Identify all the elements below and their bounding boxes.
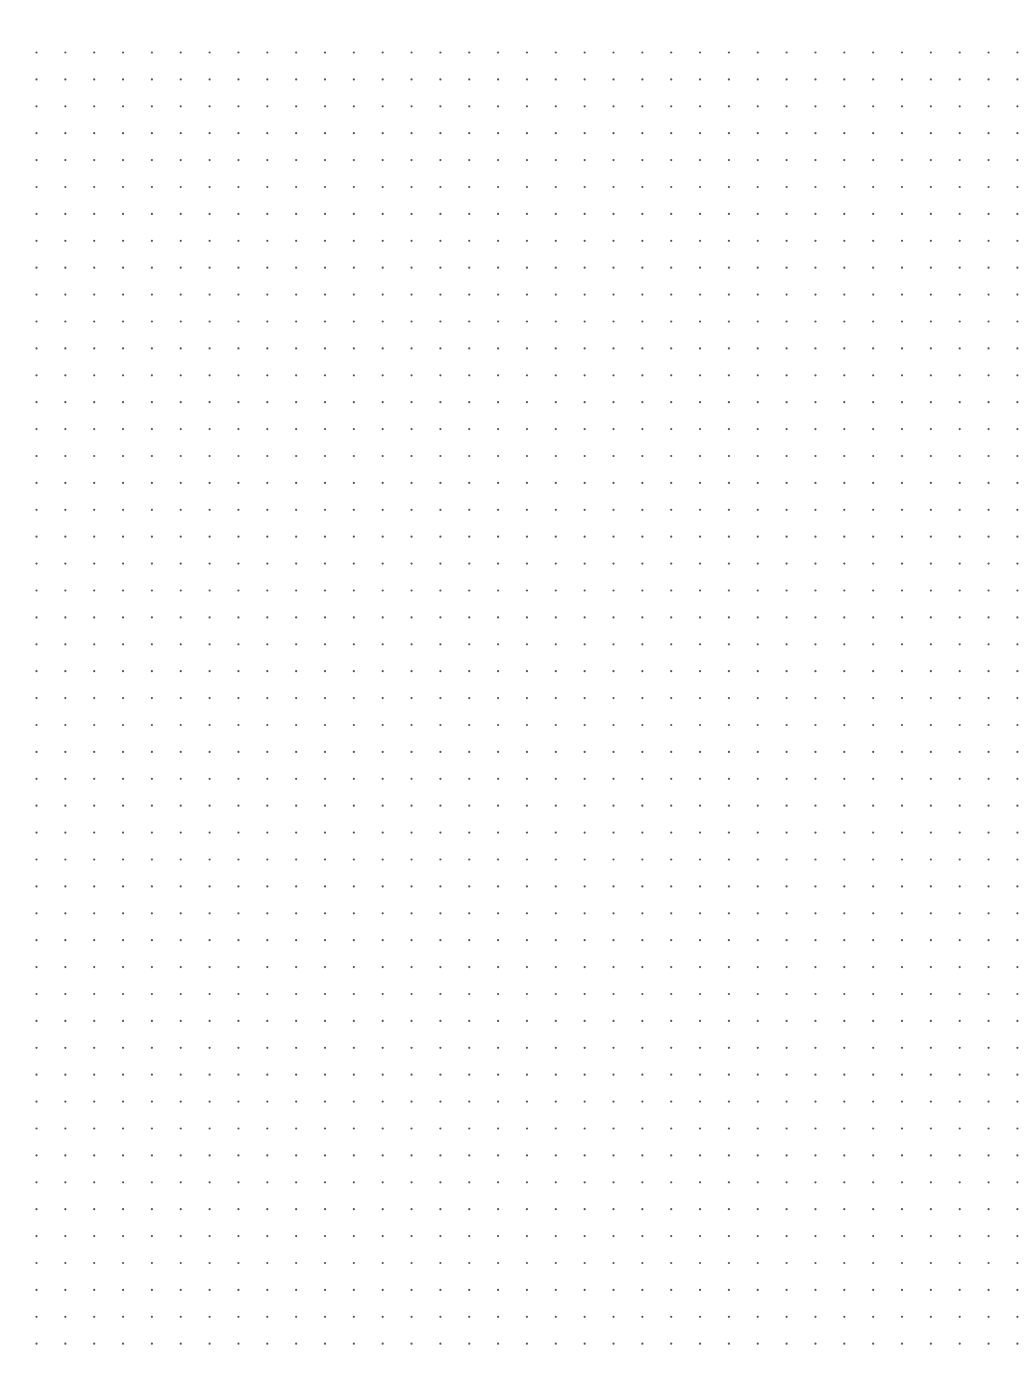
grid-dot bbox=[757, 213, 759, 215]
grid-dot bbox=[295, 78, 297, 80]
grid-dot bbox=[151, 455, 153, 457]
grid-dot bbox=[324, 1262, 326, 1264]
grid-dot bbox=[526, 401, 528, 403]
grid-dot bbox=[439, 589, 441, 591]
grid-dot bbox=[786, 428, 788, 430]
grid-dot bbox=[353, 213, 355, 215]
grid-dot bbox=[987, 401, 989, 403]
grid-dot bbox=[180, 455, 182, 457]
grid-dot bbox=[151, 885, 153, 887]
grid-dot bbox=[670, 428, 672, 430]
grid-dot bbox=[987, 616, 989, 618]
grid-dot bbox=[728, 536, 730, 538]
grid-dot bbox=[180, 401, 182, 403]
grid-dot bbox=[410, 320, 412, 322]
grid-dot bbox=[987, 374, 989, 376]
grid-dot bbox=[728, 589, 730, 591]
grid-dot bbox=[814, 482, 816, 484]
grid-dot bbox=[64, 294, 66, 296]
grid-dot bbox=[555, 966, 557, 968]
grid-dot bbox=[382, 966, 384, 968]
grid-dot bbox=[237, 482, 239, 484]
grid-dot bbox=[64, 1047, 66, 1049]
grid-dot bbox=[439, 1316, 441, 1318]
grid-dot bbox=[641, 320, 643, 322]
grid-dot bbox=[786, 1316, 788, 1318]
grid-dot bbox=[439, 1343, 441, 1345]
grid-dot bbox=[757, 132, 759, 134]
grid-dot bbox=[35, 751, 37, 753]
grid-dot bbox=[209, 1316, 211, 1318]
grid-dot bbox=[641, 885, 643, 887]
grid-dot bbox=[93, 213, 95, 215]
grid-dot bbox=[526, 1235, 528, 1237]
grid-dot bbox=[641, 724, 643, 726]
grid-dot bbox=[843, 428, 845, 430]
grid-dot bbox=[237, 1235, 239, 1237]
grid-dot bbox=[180, 509, 182, 511]
grid-dot bbox=[987, 1316, 989, 1318]
dot-grid-page bbox=[0, 0, 1030, 1386]
grid-dot bbox=[122, 509, 124, 511]
grid-dot bbox=[901, 374, 903, 376]
grid-dot bbox=[555, 616, 557, 618]
grid-dot bbox=[1016, 132, 1018, 134]
grid-dot bbox=[353, 1127, 355, 1129]
grid-dot bbox=[901, 885, 903, 887]
grid-dot bbox=[959, 778, 961, 780]
grid-dot bbox=[324, 482, 326, 484]
grid-dot bbox=[353, 401, 355, 403]
grid-dot bbox=[757, 428, 759, 430]
grid-dot bbox=[266, 1343, 268, 1345]
grid-dot bbox=[180, 643, 182, 645]
grid-dot bbox=[843, 966, 845, 968]
grid-dot bbox=[612, 939, 614, 941]
grid-dot bbox=[612, 455, 614, 457]
grid-dot bbox=[987, 1262, 989, 1264]
grid-dot bbox=[843, 159, 845, 161]
grid-dot bbox=[987, 159, 989, 161]
grid-dot bbox=[410, 105, 412, 107]
grid-dot bbox=[814, 1289, 816, 1291]
grid-dot bbox=[410, 993, 412, 995]
grid-dot bbox=[872, 1289, 874, 1291]
grid-dot bbox=[497, 482, 499, 484]
grid-dot bbox=[930, 240, 932, 242]
grid-dot bbox=[468, 159, 470, 161]
grid-dot bbox=[526, 643, 528, 645]
grid-dot bbox=[786, 132, 788, 134]
grid-dot bbox=[209, 455, 211, 457]
grid-dot bbox=[959, 213, 961, 215]
grid-dot bbox=[901, 482, 903, 484]
grid-dot bbox=[555, 912, 557, 914]
grid-dot bbox=[959, 1316, 961, 1318]
grid-dot bbox=[728, 455, 730, 457]
grid-dot bbox=[382, 1208, 384, 1210]
grid-dot bbox=[382, 1074, 384, 1076]
grid-dot bbox=[814, 724, 816, 726]
grid-dot bbox=[410, 428, 412, 430]
grid-dot bbox=[843, 78, 845, 80]
grid-dot bbox=[728, 616, 730, 618]
grid-dot bbox=[959, 240, 961, 242]
grid-dot bbox=[93, 993, 95, 995]
grid-dot bbox=[814, 912, 816, 914]
grid-dot bbox=[901, 78, 903, 80]
grid-dot bbox=[382, 294, 384, 296]
grid-dot bbox=[670, 1020, 672, 1022]
grid-dot bbox=[987, 563, 989, 565]
grid-dot bbox=[93, 1289, 95, 1291]
grid-dot bbox=[959, 78, 961, 80]
grid-dot bbox=[237, 939, 239, 941]
grid-dot bbox=[728, 1262, 730, 1264]
grid-dot bbox=[526, 294, 528, 296]
grid-dot bbox=[612, 697, 614, 699]
grid-dot bbox=[266, 939, 268, 941]
grid-dot bbox=[93, 1181, 95, 1183]
grid-dot bbox=[439, 724, 441, 726]
grid-dot bbox=[382, 1020, 384, 1022]
grid-dot bbox=[209, 428, 211, 430]
grid-dot bbox=[209, 1074, 211, 1076]
grid-dot bbox=[641, 912, 643, 914]
grid-dot bbox=[266, 778, 268, 780]
